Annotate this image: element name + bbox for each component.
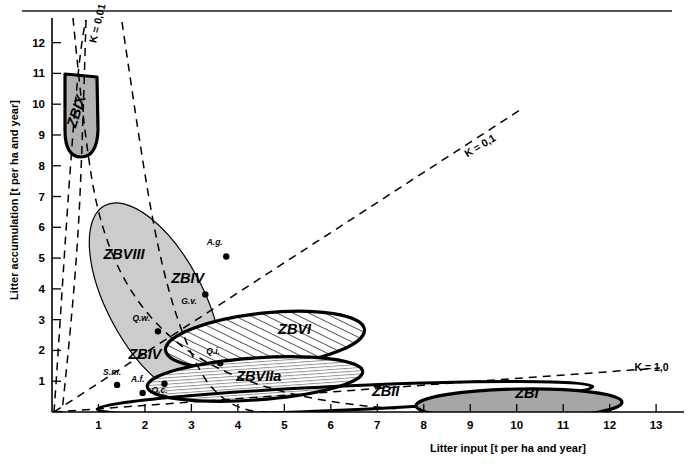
x-tick-label: 10: [510, 419, 523, 431]
species-label: A.f.: [130, 374, 145, 384]
zone-shapes-group: [62, 74, 622, 421]
y-tick-label: 7: [39, 191, 45, 203]
y-axis-title: Litter accumulation [t per ha and year]: [8, 100, 20, 300]
litter-scatter-chart: A.g.G.v.Q.w.Q.i.Q.c.S.m.A.f. 12345678910…: [0, 0, 691, 466]
figure-container: A.g.G.v.Q.w.Q.i.Q.c.S.m.A.f. 12345678910…: [0, 0, 691, 466]
species-label: Q.i.: [206, 346, 220, 356]
y-tick-label: 11: [33, 67, 46, 79]
species-label: A.g.: [206, 237, 223, 247]
zone-label-zbi: ZBI: [514, 385, 539, 401]
x-tick-label: 9: [467, 419, 473, 431]
x-tick-label: 8: [421, 419, 428, 431]
y-tick-label: 8: [39, 160, 46, 172]
x-tick-label: 11: [557, 419, 570, 431]
x-tick-label: 6: [328, 419, 334, 431]
species-label: G.v.: [181, 296, 197, 306]
x-tick-label: 4: [235, 419, 242, 431]
species-label: Q.w.: [132, 313, 150, 323]
zone-label-zbviia: ZBVIIa: [235, 368, 281, 384]
x-tick-label: 12: [603, 419, 616, 431]
x-tick-label: 3: [188, 419, 194, 431]
zone-label-zbvi: ZBVI: [277, 321, 312, 337]
y-tick-label: 4: [39, 283, 46, 295]
y-tick-label: 1: [39, 375, 46, 387]
species-label: Q.c.: [151, 385, 167, 395]
y-tick-label: 2: [39, 344, 45, 356]
y-tick-label: 6: [39, 221, 45, 233]
zone-label-zbiv: ZBIV: [170, 270, 205, 286]
species-label: S.m.: [103, 367, 121, 377]
data-point: [217, 360, 223, 366]
data-point: [114, 382, 120, 388]
data-point: [223, 253, 229, 259]
zone-label-zbii: ZBII: [371, 383, 400, 399]
data-point: [139, 390, 145, 396]
x-tick-label: 13: [650, 419, 663, 431]
x-tick-label: 2: [142, 419, 148, 431]
y-tick-label: 5: [39, 252, 46, 264]
y-tick-label: 9: [39, 129, 45, 141]
x-axis-title: Litter input [t per ha and year]: [430, 442, 586, 454]
k-annotation: K = 1,0: [634, 361, 668, 373]
data-point: [202, 291, 208, 297]
zone-label-zbivb: ZBIV: [127, 346, 162, 362]
y-tick-label: 10: [32, 98, 45, 110]
x-tick-label: 7: [374, 419, 380, 431]
zone-label-zbviii: ZBVIII: [102, 246, 145, 262]
k-annotation: K = 0,01: [86, 2, 107, 44]
x-tick-label: 1: [95, 419, 102, 431]
data-point: [155, 328, 161, 334]
y-tick-label: 12: [32, 37, 45, 49]
y-tick-group: 123456789101112: [32, 37, 61, 388]
x-tick-label: 5: [281, 419, 288, 431]
y-tick-label: 3: [39, 314, 45, 326]
